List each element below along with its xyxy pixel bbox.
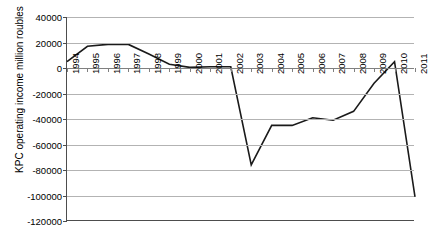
plot-area bbox=[66, 17, 414, 221]
x-axis-tick-mark bbox=[108, 68, 109, 72]
x-axis-tick-mark bbox=[251, 68, 252, 72]
x-axis-tick-label: 2011 bbox=[418, 54, 429, 74]
y-axis-title: KPC operating income million roubles bbox=[14, 0, 25, 185]
gridline bbox=[67, 43, 414, 44]
x-axis-tick-mark bbox=[415, 68, 416, 72]
x-axis-tick-mark bbox=[231, 68, 232, 72]
x-axis-tick-mark bbox=[395, 68, 396, 72]
x-axis-tick-mark bbox=[333, 68, 334, 72]
x-axis-tick-mark bbox=[87, 68, 88, 72]
x-axis-tick-mark bbox=[169, 68, 170, 72]
gridline bbox=[67, 94, 414, 95]
x-axis-tick-mark bbox=[354, 68, 355, 72]
x-axis-tick-mark bbox=[210, 68, 211, 72]
y-axis-tick-mark bbox=[63, 170, 67, 171]
x-axis-tick-mark bbox=[272, 68, 273, 72]
gridline bbox=[67, 119, 414, 120]
x-axis-tick-mark bbox=[292, 68, 293, 72]
y-axis-tick-mark bbox=[63, 17, 67, 18]
x-axis-tick-mark bbox=[67, 68, 68, 72]
y-axis-tick-mark bbox=[63, 119, 67, 120]
y-axis-tick-label: -120000 bbox=[10, 216, 62, 227]
x-axis-tick-mark bbox=[128, 68, 129, 72]
x-axis-tick-mark bbox=[313, 68, 314, 72]
y-axis-tick-label: -100000 bbox=[10, 190, 62, 201]
y-axis-tick-mark bbox=[63, 145, 67, 146]
x-axis-tick-mark bbox=[374, 68, 375, 72]
gridline bbox=[67, 68, 414, 69]
gridline bbox=[67, 196, 414, 197]
y-axis-tick-mark bbox=[63, 94, 67, 95]
y-axis-tick-mark bbox=[63, 221, 67, 222]
gridline bbox=[67, 17, 414, 18]
y-axis-tick-mark bbox=[63, 43, 67, 44]
y-axis-tick-mark bbox=[63, 196, 67, 197]
gridline bbox=[67, 170, 414, 171]
x-axis-tick-mark bbox=[149, 68, 150, 72]
gridline bbox=[67, 145, 414, 146]
y-axis-tick-labels: 40000200000-20000-40000-60000-80000-1000… bbox=[0, 0, 62, 244]
x-axis-tick-mark bbox=[190, 68, 191, 72]
